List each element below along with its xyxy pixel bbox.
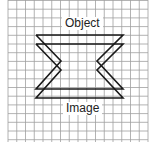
- image-label: Image: [63, 102, 102, 115]
- image-shape: [36, 44, 123, 98]
- object-shape: [36, 35, 123, 89]
- object-label: Object: [62, 17, 103, 30]
